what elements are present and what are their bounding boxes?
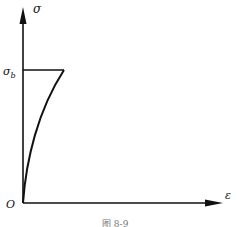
y-axis-arrowhead xyxy=(20,7,27,24)
sigma-b-label: σb xyxy=(3,65,16,80)
x-axis-label: ε xyxy=(225,189,231,202)
sigma-b-subscript: b xyxy=(11,71,16,80)
stress-strain-curve xyxy=(23,70,64,203)
y-axis-label: σ xyxy=(33,2,42,16)
x-axis-arrowhead xyxy=(205,200,223,207)
figure-caption: 图 8-9 xyxy=(102,219,129,227)
stress-strain-diagram: σ ε O σb 图 8-9 xyxy=(0,0,237,227)
origin-label: O xyxy=(6,198,15,211)
